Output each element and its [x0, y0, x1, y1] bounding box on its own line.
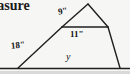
bottom-page-edge — [0, 71, 130, 74]
label-midsegment: 11" — [70, 30, 84, 39]
side-lower-right — [108, 27, 120, 68]
geometry-figure: easure 9" 11" 18" y — [0, 0, 130, 74]
side-upper-right — [88, 4, 108, 27]
label-base-variable: y — [66, 52, 70, 61]
label-upper-left-side: 9" — [57, 6, 68, 16]
label-lower-left-side: 18" — [11, 40, 26, 50]
